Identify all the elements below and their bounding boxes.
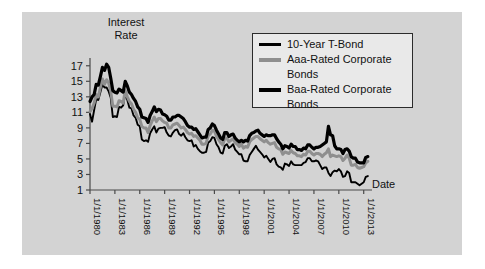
x-tick-label: 1/1/2004 xyxy=(291,198,302,235)
y-tick-label: 7 xyxy=(77,137,83,149)
legend-item-label: Baa-Rated Corporate Bonds xyxy=(287,83,392,110)
legend-item-label: 10-Year T-Bond xyxy=(287,38,363,50)
x-tick-label: 1/1/2010 xyxy=(341,198,352,235)
y-tick-label: 13 xyxy=(71,91,83,103)
x-tick-label: 1/1/1983 xyxy=(117,198,128,235)
y-tick-label: 5 xyxy=(77,153,83,165)
chart-legend: 10-Year T-BondAaa-Rated Corporate BondsB… xyxy=(252,33,413,108)
x-tick-label: 1/1/1998 xyxy=(241,198,252,235)
legend-swatch-icon xyxy=(259,58,281,62)
y-tick-label: 17 xyxy=(71,60,83,72)
x-axis-ticks: 1/1/19801/1/19831/1/19861/1/19891/1/1992… xyxy=(90,190,377,235)
y-tick-label: 15 xyxy=(71,75,83,87)
legend-item-label: Aaa-Rated Corporate Bonds xyxy=(287,53,392,80)
legend-item: Baa-Rated Corporate Bonds xyxy=(253,82,412,112)
x-tick-label: 1/1/1995 xyxy=(216,198,227,235)
x-tick-label: 1/1/1989 xyxy=(167,198,178,235)
legend-swatch-icon xyxy=(259,88,281,92)
x-tick-label: 1/1/1992 xyxy=(192,198,203,235)
y-tick-label: 9 xyxy=(77,122,83,134)
x-tick-label: 1/1/1980 xyxy=(92,198,103,235)
x-tick-label: 1/1/2001 xyxy=(266,198,277,235)
y-tick-label: 3 xyxy=(77,168,83,180)
x-tick-label: 1/1/1986 xyxy=(142,198,153,235)
chart-screenshot: Interest Rate Date 1715131197531 1/1/198… xyxy=(0,0,485,269)
legend-item: 10-Year T-Bond xyxy=(253,37,412,52)
x-tick-label: 1/1/2007 xyxy=(316,198,327,235)
legend-item: Aaa-Rated Corporate Bonds xyxy=(253,52,412,82)
legend-swatch-icon xyxy=(259,43,281,46)
y-tick-label: 11 xyxy=(72,106,83,118)
x-tick-label: 1/1/2013 xyxy=(366,198,377,235)
y-axis-ticks: 1715131197531 xyxy=(71,60,90,196)
y-tick-label: 1 xyxy=(77,184,83,196)
